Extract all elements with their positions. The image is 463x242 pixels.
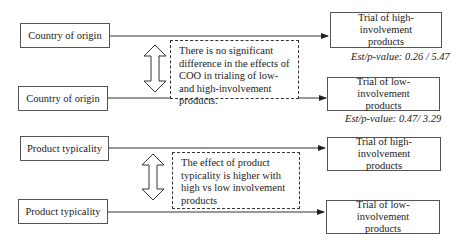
predictor-label: Country of origin <box>26 93 100 105</box>
predictor-box-typicality-top: Product typicality <box>20 136 109 161</box>
predictor-box-typicality-bottom: Product typicality <box>18 199 108 224</box>
predictor-box-coo-bottom: Country of origin <box>18 86 108 111</box>
outcome-label: Trial of low-involvement products <box>342 76 425 112</box>
predictor-label: Product typicality <box>26 206 101 218</box>
finding-note-typicality: The effect of product typicality is high… <box>172 152 300 209</box>
outcome-label: Trial of high-involvement products <box>345 12 427 48</box>
predictor-label: Country of origin <box>28 30 102 42</box>
outcome-label: Trial of low-involvement products <box>341 199 425 235</box>
predictor-label: Product typicality <box>27 143 102 155</box>
outcome-box-low-involvement: Trial of low-involvement products <box>327 77 440 111</box>
outcome-label: Trial of high-involvement products <box>342 136 426 172</box>
double-arrow-icon <box>142 154 164 200</box>
outcome-box-high-involvement-2: Trial of high-involvement products <box>327 137 441 171</box>
estimate-high-involvement: Est/p-value: 0.26 / 5.47 <box>351 51 450 62</box>
double-arrow-icon <box>144 45 166 92</box>
predictor-box-coo-top: Country of origin <box>20 23 110 48</box>
outcome-box-low-involvement-2: Trial of low-involvement products <box>326 200 440 234</box>
estimate-low-involvement: Est/p-value: 0.47/ 3.29 <box>345 113 441 124</box>
finding-note-coo: There is no significant difference in th… <box>170 40 299 99</box>
outcome-box-high-involvement: Trial of high-involvement products <box>330 12 442 48</box>
